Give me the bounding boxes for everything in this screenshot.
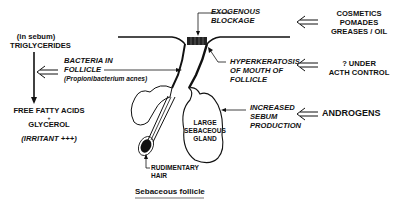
- diagram-caption: Sebaceous follicle: [135, 188, 205, 196]
- rudimentary-hair-label-1: RUDIMENTARY: [151, 164, 199, 171]
- hyperkeratosis-label-3: FOLLICLE: [230, 76, 267, 84]
- triglycerides-label: TRIGLYCERIDES: [10, 42, 62, 50]
- rudimentary-hair-label-2: HAIR: [151, 172, 167, 179]
- acth-label-2: ACTH CONTROL: [320, 69, 398, 77]
- androgens-label: ANDROGENS: [322, 109, 381, 117]
- gland-label-1: LARGE: [182, 119, 228, 126]
- increased-sebum-label-3: PRODUCTION: [250, 122, 301, 130]
- gland-label-3: GLAND: [182, 135, 228, 142]
- sebaceous-follicle-diagram: (in sebum) TRIGLYCERIDES FREE FATTY ACID…: [0, 0, 404, 207]
- bacteria-species: (Propionibacterium acnes): [64, 75, 147, 82]
- exogenous-label-2: BLOCKAGE: [211, 17, 254, 25]
- irritant-label: (IRRITANT +++): [6, 135, 92, 143]
- glycerol-label: GLYCEROL: [6, 121, 92, 129]
- gland-label-2: SEBACEOUS: [182, 127, 228, 134]
- bacteria-label-2: FOLLICLE: [64, 66, 101, 74]
- greases-oil-label: GREASES / OIL: [320, 28, 398, 36]
